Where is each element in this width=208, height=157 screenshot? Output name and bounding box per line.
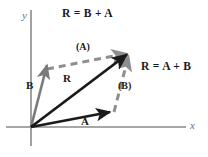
vector-r bbox=[31, 55, 127, 128]
vector-b-label: B bbox=[26, 80, 33, 91]
side-equation: R = A + B bbox=[141, 61, 191, 73]
dashed-b-label: (B) bbox=[118, 81, 131, 91]
x-axis-label: x bbox=[190, 120, 195, 131]
vector-addition-figure: y x R = B + A R = A + B (A) (B) B R A bbox=[0, 0, 208, 157]
vector-a-label: A bbox=[81, 116, 89, 127]
y-axis-label: y bbox=[22, 10, 27, 21]
title-equation: R = B + A bbox=[62, 8, 113, 20]
dashed-vector-a bbox=[47, 54, 127, 70]
vector-r-label: R bbox=[63, 73, 71, 84]
dashed-a-label: (A) bbox=[76, 42, 90, 52]
